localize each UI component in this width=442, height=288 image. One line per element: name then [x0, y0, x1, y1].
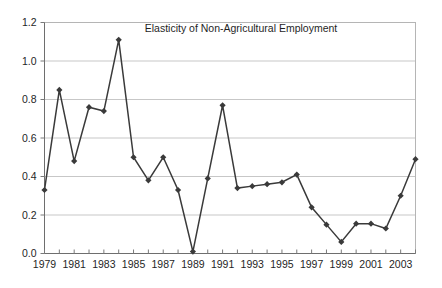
- y-tick-label: 0.8: [22, 93, 37, 105]
- y-tick-label: 1.2: [22, 16, 37, 28]
- chart-plot-area: 0.00.20.40.60.81.01.2 197919811983198519…: [0, 0, 442, 288]
- x-tick-label: 1981: [63, 258, 87, 270]
- x-tick-label: 1991: [211, 258, 235, 270]
- x-tick-label: 2003: [389, 258, 413, 270]
- x-tick-label: 1983: [92, 258, 116, 270]
- y-tick-labels: 0.00.20.40.60.81.01.2: [22, 16, 37, 259]
- y-tick-label: 0.2: [22, 209, 37, 221]
- x-tick-label: 1999: [330, 258, 354, 270]
- data-point-marker: [249, 183, 255, 189]
- chart-title: Elasticity of Non-Agricultural Employmen…: [145, 22, 338, 34]
- elasticity-line-chart: 0.00.20.40.60.81.01.2 197919811983198519…: [0, 0, 442, 288]
- data-point-marker: [71, 158, 77, 164]
- data-point-marker: [398, 193, 404, 199]
- data-point-marker: [175, 187, 181, 193]
- x-tick-marks: [45, 250, 416, 254]
- data-point-marker: [86, 104, 92, 110]
- data-point-marker: [41, 187, 47, 193]
- x-tick-label: 1989: [181, 258, 205, 270]
- data-point-marker: [234, 185, 240, 191]
- x-tick-label: 1979: [33, 258, 57, 270]
- x-tick-label: 1995: [270, 258, 294, 270]
- x-tick-labels: 1979198119831985198719891991199319951997…: [33, 258, 413, 270]
- x-tick-label: 1997: [300, 258, 324, 270]
- gridlines: [45, 61, 416, 215]
- y-tick-label: 1.0: [22, 55, 37, 67]
- y-tick-marks: [41, 23, 45, 254]
- x-tick-label: 1993: [241, 258, 265, 270]
- data-point-marker: [116, 37, 122, 43]
- data-point-marker: [56, 87, 62, 93]
- x-tick-label: 1987: [152, 258, 176, 270]
- data-point-marker: [412, 156, 418, 162]
- series-line-elasticity: [45, 40, 416, 252]
- data-point-marker: [219, 102, 225, 108]
- y-tick-label: 0.6: [22, 132, 37, 144]
- data-point-marker: [279, 179, 285, 185]
- data-point-marker: [101, 108, 107, 114]
- x-tick-label: 1985: [122, 258, 146, 270]
- data-point-marker: [368, 221, 374, 227]
- data-point-marker: [383, 225, 389, 231]
- x-tick-label: 2001: [359, 258, 383, 270]
- data-point-marker: [264, 181, 270, 187]
- y-tick-label: 0.4: [22, 170, 37, 182]
